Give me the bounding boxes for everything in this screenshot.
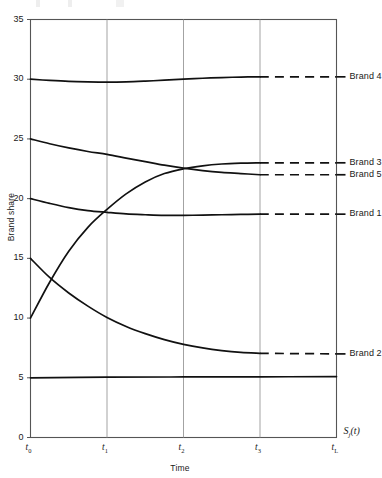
series-label-brand-1: Brand 1 xyxy=(350,208,382,218)
y-tick-label: 15 xyxy=(2,252,24,262)
y-tick-label: 30 xyxy=(2,73,24,83)
corner-function-label: Sj(t) xyxy=(344,425,360,439)
y-tick-label: 20 xyxy=(2,193,24,203)
x-tick-label: tL xyxy=(332,442,339,454)
series-label-brand-4: Brand 4 xyxy=(350,71,382,81)
x-axis-label: Time xyxy=(150,463,210,473)
x-tick-label: t0 xyxy=(26,442,32,454)
y-tick-label: 35 xyxy=(2,14,24,24)
series-label-brand-2: Brand 2 xyxy=(350,348,382,358)
x-tick-label: t1 xyxy=(102,442,108,454)
y-tick-label: 25 xyxy=(2,133,24,143)
series-label-brand-3: Brand 3 xyxy=(350,157,382,167)
y-tick-label: 0 xyxy=(2,432,24,442)
x-tick-label: t3 xyxy=(255,442,261,454)
x-tick-label: t2 xyxy=(179,442,185,454)
y-tick-label: 5 xyxy=(2,372,24,382)
series-label-brand-5: Brand 5 xyxy=(350,169,382,179)
y-tick-label: 10 xyxy=(2,312,24,322)
